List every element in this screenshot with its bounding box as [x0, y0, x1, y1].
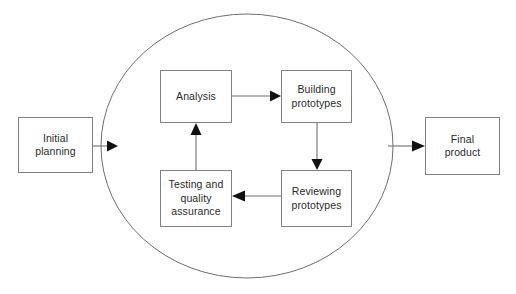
- node-testing-and-quality-assurance[interactable]: Testing and quality assurance: [160, 170, 232, 227]
- connector-analysis-to-building-prototypes: [232, 91, 281, 102]
- node-final-product[interactable]: Final product: [425, 117, 500, 175]
- node-label-initial-planning: Initial planning: [32, 132, 79, 159]
- node-initial-planning[interactable]: Initial planning: [18, 117, 93, 173]
- connector-testing-to-analysis: [191, 123, 202, 170]
- process-diagram: Initial planning Analysis Building proto…: [0, 0, 516, 294]
- node-analysis[interactable]: Analysis: [160, 70, 232, 123]
- connector-reviewing-to-testing: [232, 191, 281, 202]
- iteration-cycle-ring: [101, 14, 393, 278]
- node-building-prototypes[interactable]: Building prototypes: [281, 70, 352, 123]
- node-label-final-product: Final product: [442, 133, 484, 160]
- node-label-building-prototypes: Building prototypes: [288, 83, 344, 110]
- connector-cycle-to-final-product: [388, 141, 425, 152]
- connector-building-to-reviewing: [312, 123, 323, 170]
- node-label-reviewing-prototypes: Reviewing prototypes: [288, 185, 344, 212]
- node-label-analysis: Analysis: [173, 90, 219, 104]
- connector-initial-planning-to-cycle: [93, 141, 118, 152]
- node-label-testing-and-quality-assurance: Testing and quality assurance: [166, 178, 227, 219]
- node-reviewing-prototypes[interactable]: Reviewing prototypes: [281, 170, 352, 227]
